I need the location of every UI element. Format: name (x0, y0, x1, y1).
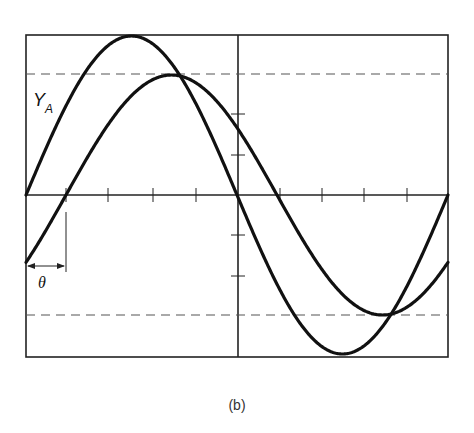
oscilloscope-diagram (0, 0, 474, 433)
phase-label-theta: θ (38, 274, 46, 292)
arrowhead-left-icon (27, 263, 35, 269)
figure-caption: (b) (0, 397, 474, 413)
phase-marker (27, 212, 66, 272)
curve-label-ya: YA (33, 90, 53, 114)
arrowhead-right-icon (57, 263, 65, 269)
